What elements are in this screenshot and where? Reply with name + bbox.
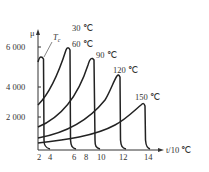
y-tick-2000: 2 000 xyxy=(6,112,25,122)
chart-canvas: μ 6 000 4 000 2 000 2 4 6 8 10 12 14 t/1… xyxy=(0,0,209,172)
x-tick-14: 14 xyxy=(144,152,153,162)
x-tick-12: 12 xyxy=(119,152,128,162)
y-tick-4000: 4 000 xyxy=(6,82,25,92)
y-tick-6000: 6 000 xyxy=(6,42,25,52)
x-tick-6: 6 xyxy=(72,152,76,162)
label-120c: 120 ℃ xyxy=(113,65,138,75)
x-tick-2: 2 xyxy=(37,152,41,162)
label-60c: 60 ℃ xyxy=(72,39,93,49)
x-axis-label: t/10 ℃ xyxy=(166,145,191,155)
y-axis-arrow-icon xyxy=(36,29,40,35)
tc-pointer xyxy=(44,42,52,57)
x-tick-8: 8 xyxy=(84,152,88,162)
tc-label: Tc xyxy=(53,32,61,43)
x-tick-4: 4 xyxy=(48,152,53,162)
y-axis-label: μ xyxy=(30,28,35,38)
label-90c: 90 ℃ xyxy=(96,50,117,60)
x-axis-arrow-icon xyxy=(158,148,164,152)
label-150c: 150 ℃ xyxy=(135,92,160,102)
x-tick-10: 10 xyxy=(97,152,106,162)
label-30c: 30 ℃ xyxy=(72,23,93,33)
